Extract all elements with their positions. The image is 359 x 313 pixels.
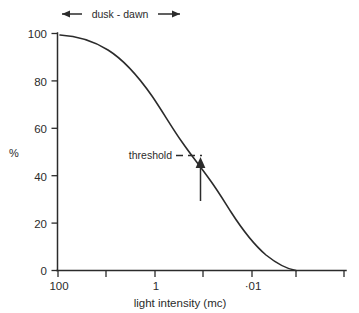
chart-svg: dusk - dawn 100 80 60 40 20 0 % 100 1 ·0… [0, 0, 359, 313]
x-tick-label-100: 100 [49, 280, 68, 292]
y-tick-label-0: 0 [41, 265, 47, 277]
dusk-dawn-label: dusk - dawn [92, 8, 149, 20]
left-arrow-icon [62, 11, 70, 18]
y-tick-label-80: 80 [34, 76, 47, 88]
y-tick-label-60: 60 [34, 123, 47, 135]
response-curve [60, 35, 296, 271]
y-axis-ticks [52, 34, 58, 271]
y-tick-label-40: 40 [34, 171, 47, 183]
x-axis-title: light intensity (mc) [134, 297, 227, 309]
x-tick-label-1: 1 [153, 280, 159, 292]
right-arrow-icon [172, 11, 180, 18]
x-axis-ticks [58, 271, 344, 278]
x-tick-label-01: ·01 [245, 280, 262, 292]
y-tick-label-20: 20 [34, 218, 47, 230]
figure-container: dusk - dawn 100 80 60 40 20 0 % 100 1 ·0… [0, 0, 359, 313]
y-axis-title: % [9, 147, 19, 159]
y-tick-label-100: 100 [28, 28, 47, 40]
threshold-label: threshold [129, 149, 172, 161]
